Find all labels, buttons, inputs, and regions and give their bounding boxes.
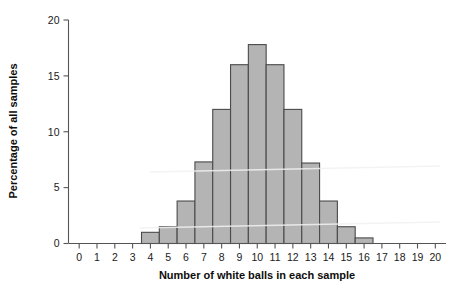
x-tick-label: 18 (394, 251, 406, 263)
histogram-bar (142, 232, 160, 243)
x-tick-label: 17 (376, 251, 388, 263)
y-tick-label: 10 (48, 126, 60, 138)
histogram-bar (266, 65, 284, 244)
x-tick-label: 13 (305, 251, 317, 263)
histogram-bar (302, 163, 320, 243)
x-tick-label: 8 (219, 251, 225, 263)
x-tick-label: 7 (201, 251, 207, 263)
x-tick-label: 15 (340, 251, 352, 263)
x-tick-label: 9 (237, 251, 243, 263)
histogram-bar (248, 45, 266, 244)
y-tick-label: 15 (48, 70, 60, 82)
chart-canvas: 05101520 0123456789101112131415161718192… (0, 0, 461, 289)
x-tick-label: 10 (251, 251, 263, 263)
y-tick-label: 20 (48, 14, 60, 26)
histogram-bar (320, 201, 338, 243)
x-tick-label: 6 (183, 251, 189, 263)
histogram-bar (355, 238, 373, 244)
histogram-bar (213, 109, 231, 243)
x-tick-label: 4 (147, 251, 153, 263)
x-tick-label: 20 (429, 251, 441, 263)
histogram-bar (231, 65, 249, 244)
y-axis-title: Percentage of all samples (7, 63, 19, 198)
x-tick-label: 12 (287, 251, 299, 263)
y-tick-label: 0 (54, 237, 60, 249)
x-tick-label: 1 (94, 251, 100, 263)
x-tick-label: 14 (323, 251, 335, 263)
x-tick-label: 0 (76, 251, 82, 263)
x-axis-title: Number of white balls in each sample (159, 269, 355, 281)
x-tick-label: 2 (112, 251, 118, 263)
histogram-bar (159, 227, 177, 244)
histogram-bar (284, 109, 302, 243)
y-tick-label: 5 (54, 181, 60, 193)
x-tick-label: 5 (165, 251, 171, 263)
histogram-bar (195, 162, 213, 244)
histogram-figure: 05101520 0123456789101112131415161718192… (0, 0, 461, 289)
x-tick-label: 3 (130, 251, 136, 263)
x-tick-label: 16 (358, 251, 370, 263)
x-tick-label: 19 (412, 251, 424, 263)
histogram-bar (337, 227, 355, 244)
x-tick-label: 11 (270, 251, 281, 263)
histogram-bar (177, 201, 195, 243)
